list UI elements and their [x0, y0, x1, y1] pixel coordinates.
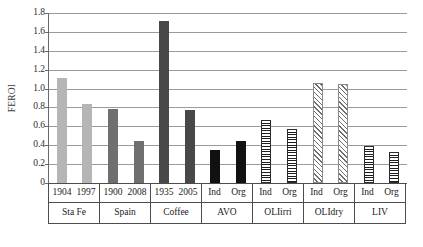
category-group-label: LIV: [355, 203, 406, 224]
category-sublabel-cell: IndOrg: [253, 184, 304, 203]
bar: [108, 109, 118, 183]
y-axis-tick-label: 1.2: [33, 65, 45, 75]
category-group-label: OLIirri: [253, 203, 304, 224]
bar: [338, 84, 348, 183]
feroi-bar-chart: FEROI 00.20.40.60.81.01.21.41.61.8 19041…: [0, 0, 423, 247]
y-axis-tick-label: 0.6: [33, 122, 45, 132]
category-sublabel: 1935: [155, 188, 174, 198]
y-axis-tick-label: 1.6: [33, 27, 45, 37]
bar: [236, 141, 246, 183]
category-sublabel: Ind: [259, 188, 272, 198]
category-sublabel-cell: IndOrg: [355, 184, 406, 203]
bar: [82, 104, 92, 183]
plot-area: [48, 13, 407, 183]
category-sublabel: Ind: [208, 188, 221, 198]
bar: [134, 141, 144, 184]
category-group-label: Spain: [100, 203, 151, 224]
category-sublabel: Ind: [361, 188, 374, 198]
category-sublabel-cell: 19002008: [100, 184, 151, 203]
category-sublabel-cell: 19352005: [151, 184, 202, 203]
category-sublabel: Org: [333, 188, 348, 198]
category-sublabel: 2005: [179, 188, 198, 198]
category-group-row: Sta FeSpainCoffeeAVOOLIirriOLIdryLIV: [49, 203, 406, 224]
bar: [185, 110, 195, 183]
category-sublabel-row: 190419971900200819352005IndOrgIndOrgIndO…: [49, 184, 406, 203]
bar: [364, 146, 374, 183]
y-axis-tick-label: 1.4: [33, 46, 45, 56]
category-sublabel: Org: [231, 188, 246, 198]
category-sublabel-cell: 19041997: [49, 184, 100, 203]
bar: [57, 78, 67, 183]
bar: [261, 120, 271, 183]
category-sublabel: 1904: [53, 188, 72, 198]
category-sublabel: 1997: [77, 188, 96, 198]
category-sublabel: Ind: [310, 188, 323, 198]
y-axis-title-label: FEROI: [7, 84, 17, 112]
bar: [287, 129, 297, 183]
y-axis-tick-label: 0.4: [33, 140, 45, 150]
bar: [210, 150, 220, 183]
bars-layer: [49, 13, 407, 183]
category-sublabel: 2008: [128, 188, 147, 198]
category-group-label: Coffee: [151, 203, 202, 224]
category-sublabel: Org: [282, 188, 297, 198]
category-sublabel: Org: [384, 188, 399, 198]
y-axis-tick-label: 0.8: [33, 103, 45, 113]
y-axis-tick-label: 1.0: [33, 84, 45, 94]
category-sublabel: 1900: [104, 188, 123, 198]
bar: [313, 83, 323, 183]
bar: [159, 21, 169, 183]
y-axis-tick-labels: 00.20.40.60.81.01.21.41.61.8: [18, 0, 48, 196]
category-sublabel-cell: IndOrg: [202, 184, 253, 203]
y-axis-tick-label: 0.2: [33, 159, 45, 169]
category-axis-table: 190419971900200819352005IndOrgIndOrgIndO…: [48, 183, 406, 224]
category-group-label: AVO: [202, 203, 253, 224]
category-group-label: Sta Fe: [49, 203, 100, 224]
category-sublabel-cell: IndOrg: [304, 184, 355, 203]
y-axis-tick-label: 1.8: [33, 8, 45, 18]
category-group-label: OLIdry: [304, 203, 355, 224]
bar: [389, 152, 399, 183]
